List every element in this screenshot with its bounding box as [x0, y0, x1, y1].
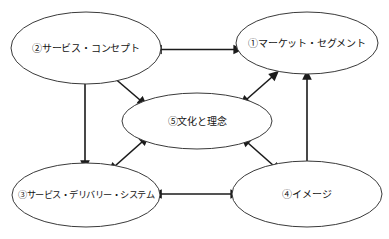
node-market-segment-label: ①マーケット・セグメント [248, 37, 366, 49]
relationship-diagram: ②サービス・コンセプト ①マーケット・セグメント ⑤文化と理念 ③サービス・デリ… [0, 0, 389, 239]
connector-market-segment-to-culture [247, 77, 272, 99]
node-culture-and-philosophy-label: ⑤文化と理念 [168, 115, 227, 127]
node-service-delivery-system[interactable]: ③サービス・デリバリー・システム [12, 163, 160, 227]
node-service-concept-label: ②サービス・コンセプト [32, 43, 140, 54]
diagram-canvas: ②サービス・コンセプト ①マーケット・セグメント ⑤文化と理念 ③サービス・デリ… [0, 0, 389, 239]
node-culture-and-philosophy[interactable]: ⑤文化と理念 [122, 93, 272, 149]
node-market-segment[interactable]: ①マーケット・セグメント [236, 12, 378, 74]
connector-culture-to-image [248, 143, 274, 166]
node-service-concept[interactable]: ②サービス・コンセプト [11, 12, 161, 84]
node-image-label: ④イメージ [282, 189, 331, 200]
node-service-delivery-system-label: ③サービス・デリバリー・システム [18, 189, 155, 200]
connector-service-delivery-to-culture [115, 142, 142, 166]
node-image[interactable]: ④イメージ [232, 161, 382, 227]
